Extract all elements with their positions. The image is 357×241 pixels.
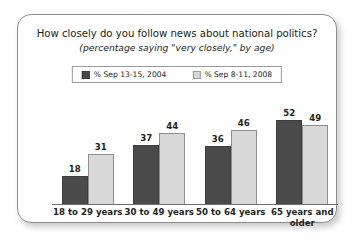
chart-title: How closely do you follow news about nat… bbox=[18, 27, 336, 40]
bar-value-label: 31 bbox=[95, 142, 107, 152]
x-axis-label: 18 to 29 years bbox=[52, 207, 124, 229]
legend-swatch-icon-2008 bbox=[192, 71, 200, 79]
bar-group: 3646 bbox=[195, 107, 267, 205]
title-block: How closely do you follow news about nat… bbox=[18, 27, 336, 54]
bar bbox=[133, 145, 159, 205]
bar-container: 18 bbox=[62, 107, 88, 205]
x-axis-baseline bbox=[52, 204, 338, 205]
bar-container: 49 bbox=[302, 107, 328, 205]
bar bbox=[205, 146, 231, 205]
x-axis-label: 50 to 64 years bbox=[195, 207, 267, 229]
bar-container: 46 bbox=[231, 107, 257, 205]
chart-figure: How closely do you follow news about nat… bbox=[0, 0, 357, 241]
bar-value-label: 46 bbox=[238, 118, 250, 128]
bar-container: 52 bbox=[276, 107, 302, 205]
bar-container: 36 bbox=[205, 107, 231, 205]
x-axis-labels: 18 to 29 years30 to 49 years50 to 64 yea… bbox=[52, 207, 338, 229]
bar-value-label: 36 bbox=[212, 134, 224, 144]
bar-group: 1831 bbox=[52, 107, 124, 205]
bar bbox=[302, 125, 328, 205]
bar-container: 37 bbox=[133, 107, 159, 205]
bar-value-label: 37 bbox=[140, 133, 152, 143]
bar-value-label: 44 bbox=[166, 121, 178, 131]
bar bbox=[159, 133, 185, 205]
bar-value-label: 52 bbox=[283, 108, 295, 118]
bar-container: 44 bbox=[159, 107, 185, 205]
bar bbox=[62, 176, 88, 205]
chart-legend: % Sep 13-15, 2004 % Sep 8-11, 2008 bbox=[72, 66, 282, 83]
legend-entry-2004: % Sep 13-15, 2004 bbox=[82, 70, 167, 79]
legend-entry-2008: % Sep 8-11, 2008 bbox=[192, 70, 272, 79]
bar-group: 3744 bbox=[124, 107, 196, 205]
plot-area: 1831374436465249 bbox=[52, 107, 338, 205]
bar-container: 31 bbox=[88, 107, 114, 205]
x-axis-label: 30 to 49 years bbox=[124, 207, 196, 229]
legend-label-2004: % Sep 13-15, 2004 bbox=[94, 70, 167, 79]
bar-groups: 1831374436465249 bbox=[52, 107, 338, 205]
bar-value-label: 18 bbox=[69, 164, 81, 174]
chart-frame: How closely do you follow news about nat… bbox=[17, 14, 337, 223]
bar bbox=[88, 154, 114, 205]
bar-group: 5249 bbox=[267, 107, 339, 205]
x-axis-label: 65 years and older bbox=[267, 207, 339, 229]
chart-subtitle: (percentage saying "very closely," by ag… bbox=[18, 41, 336, 54]
bar bbox=[231, 130, 257, 205]
bar bbox=[276, 120, 302, 205]
legend-swatch-icon-2004 bbox=[82, 71, 90, 79]
bar-value-label: 49 bbox=[309, 113, 321, 123]
legend-label-2008: % Sep 8-11, 2008 bbox=[204, 70, 272, 79]
